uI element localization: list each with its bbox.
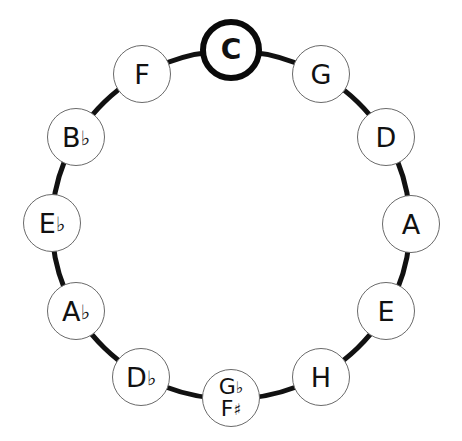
flat-symbol: ♭ — [81, 302, 90, 322]
key-label: F — [134, 61, 150, 88]
key-label: E — [377, 298, 394, 325]
note-letter: D — [126, 364, 146, 391]
flat-symbol: ♭ — [236, 380, 244, 396]
key-label: C — [221, 36, 242, 64]
key-node-h: H — [292, 348, 350, 406]
key-node-d-flat: D♭ — [112, 348, 170, 406]
flat-symbol: ♭ — [81, 128, 90, 148]
key-node-g-flat-f-sharp: G♭ F♯ — [202, 369, 260, 427]
key-node-a-flat: A♭ — [47, 282, 105, 340]
key-label: A — [402, 211, 420, 238]
circle-of-fifths-diagram: C G D A E H G♭ F♯ D♭ — [0, 0, 462, 441]
key-label: A♭ — [62, 298, 90, 325]
note-letter: G — [219, 376, 235, 398]
note-letter: F — [134, 61, 149, 88]
note-letter: B — [62, 124, 80, 151]
key-label: D♭ — [126, 364, 156, 391]
note-letter: C — [221, 36, 241, 64]
key-label-lower: F♯ — [221, 398, 241, 420]
key-label-upper: G♭ — [219, 376, 244, 398]
key-label: E♭ — [39, 210, 66, 237]
key-node-g: G — [292, 45, 350, 103]
circle-line — [52, 51, 410, 399]
key-node-e-flat: E♭ — [23, 194, 81, 252]
key-node-c: C — [200, 19, 262, 81]
key-node-a: A — [382, 195, 440, 253]
flat-symbol: ♭ — [147, 368, 156, 388]
key-node-e: E — [357, 282, 415, 340]
key-label: B♭ — [62, 124, 90, 151]
key-node-f: F — [113, 45, 171, 103]
note-letter: F — [221, 398, 233, 420]
note-letter: D — [376, 124, 396, 151]
flat-symbol: ♭ — [56, 214, 65, 234]
key-node-d: D — [357, 108, 415, 166]
key-label: D — [376, 124, 397, 151]
sharp-symbol: ♯ — [233, 402, 241, 418]
note-letter: H — [311, 364, 330, 391]
note-letter: A — [402, 211, 419, 238]
note-letter: G — [311, 61, 331, 88]
note-letter: E — [39, 210, 55, 237]
key-label: H — [311, 364, 331, 391]
note-letter: A — [62, 298, 79, 325]
key-node-b-flat: B♭ — [47, 108, 105, 166]
note-letter: E — [377, 298, 393, 325]
key-label: G — [311, 61, 332, 88]
